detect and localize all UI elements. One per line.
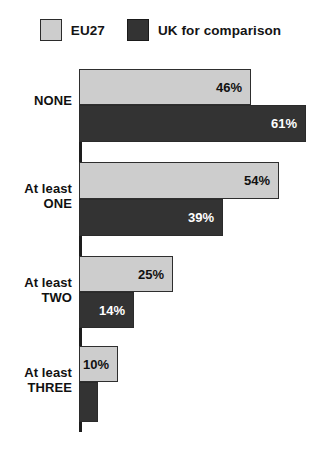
- legend-label-eu27: EU27: [71, 23, 105, 38]
- legend-swatch-icon-uk: [127, 19, 149, 41]
- category-label-none: NONE: [0, 93, 72, 108]
- bar-at-least-three-eu27: 10%: [79, 346, 118, 382]
- bar-value-label: 39%: [188, 210, 222, 225]
- category-label-at-least-two: At leastTWO: [0, 275, 72, 305]
- legend-entry-uk: UK for comparison: [127, 19, 281, 41]
- chart-plot-area: 46%61%54%39%25%14%10%5% NONEAt leastONEA…: [0, 60, 321, 452]
- legend-label-uk: UK for comparison: [158, 23, 281, 38]
- category-label-line: THREE: [0, 380, 72, 395]
- bar-at-least-one-eu27: 54%: [79, 162, 279, 199]
- bar-value-label: 10%: [83, 357, 117, 372]
- bar-value-label: 25%: [138, 267, 172, 282]
- bar-at-least-one-uk: 39%: [79, 199, 223, 236]
- bar-at-least-two-eu27: 25%: [79, 256, 173, 292]
- category-label-line: TWO: [0, 290, 72, 305]
- bar-none-eu27: 46%: [79, 69, 251, 105]
- bar-value-label: 54%: [244, 173, 278, 188]
- bar-value-label: 46%: [216, 80, 250, 95]
- category-label-line: At least: [0, 365, 72, 380]
- bar-at-least-two-uk: 14%: [79, 292, 134, 328]
- category-label-line: At least: [0, 181, 72, 196]
- chart-legend: EU27 UK for comparison: [0, 0, 321, 60]
- legend-entry-eu27: EU27: [40, 19, 105, 41]
- category-label-at-least-one: At leastONE: [0, 181, 72, 211]
- legend-swatch-icon-eu27: [40, 19, 62, 41]
- category-label-line: At least: [0, 275, 72, 290]
- category-label-line: ONE: [0, 196, 72, 211]
- bar-value-label: 5%: [97, 395, 120, 410]
- bar-value-label: 61%: [271, 116, 305, 131]
- bar-value-label: 14%: [99, 303, 133, 318]
- category-label-line: NONE: [0, 93, 72, 108]
- bar-none-uk: 61%: [79, 105, 306, 142]
- category-label-at-least-three: At leastTHREE: [0, 365, 72, 395]
- bar-at-least-three-uk: 5%: [79, 382, 98, 422]
